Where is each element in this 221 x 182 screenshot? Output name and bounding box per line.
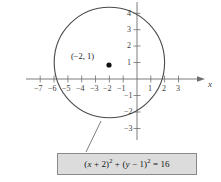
x-tick-label--5: −5	[62, 85, 71, 93]
y-tick-label-4: 4	[127, 10, 131, 18]
x-axis-arrow-icon	[197, 76, 205, 82]
y-tick-label--3: −3	[124, 125, 133, 133]
equation-equals: = 16	[151, 159, 170, 169]
y-tick-label--1: −1	[124, 92, 133, 100]
x-tick-label--4: −4	[76, 85, 85, 93]
x-tick-label-1: 1	[148, 85, 152, 93]
center-point-marker	[106, 62, 111, 67]
x-axis-label: x	[208, 80, 212, 89]
x-tick-label--2: −2	[103, 85, 112, 93]
x-tick-label-3: 3	[176, 85, 180, 93]
center-coordinate-label: (−2, 1)	[71, 52, 94, 61]
y-tick-label-2: 2	[127, 42, 131, 50]
y-tick-label-1: 1	[127, 59, 131, 67]
equation-callout-box: (x + 2)2 + (y − 1)2 = 16	[57, 153, 197, 175]
equation-p1-rest: + 2)	[92, 159, 110, 169]
y-tick-label--2: −2	[124, 108, 133, 116]
x-tick-label--3: −3	[90, 85, 99, 93]
equation-p2-rest: − 1)	[130, 159, 148, 169]
x-tick-label-2: 2	[162, 85, 166, 93]
equation-plus: +	[113, 159, 123, 169]
circle-graph-figure: −7 −6 −5 −4 −3 −2 −1 1 2 3 4 3 2 1 −1 −2…	[0, 0, 221, 182]
x-tick-label--7: −7	[34, 85, 43, 93]
x-tick-label--6: −6	[48, 85, 57, 93]
callout-leader-line	[86, 121, 101, 152]
y-tick-label-3: 3	[127, 26, 131, 34]
equation-text: (x + 2)2 + (y − 1)2 = 16	[84, 159, 169, 169]
